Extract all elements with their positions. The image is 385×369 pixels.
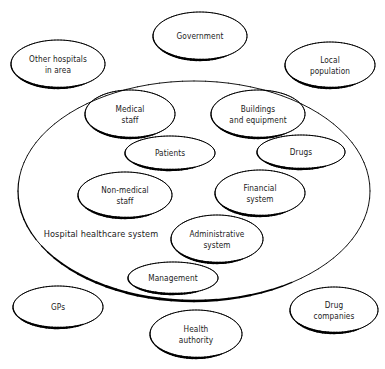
rich-picture-diagram: Hospital healthcare systemGovernmentOthe…	[0, 0, 385, 369]
node-ellipse-patients[interactable]	[125, 136, 215, 170]
node-ellipse-other-hospitals[interactable]	[11, 40, 105, 88]
node-ellipse-management[interactable]	[128, 262, 218, 294]
node-ellipse-administrative-system[interactable]	[171, 215, 263, 263]
node-ellipse-non-medical-staff[interactable]	[78, 172, 172, 218]
node-ellipse-medical-staff[interactable]	[85, 90, 175, 138]
node-ellipse-government[interactable]	[153, 12, 247, 60]
diagram-canvas	[0, 0, 385, 369]
node-ellipse-health-authority[interactable]	[150, 310, 242, 358]
node-ellipse-financial-system[interactable]	[215, 170, 305, 216]
node-ellipse-local-population[interactable]	[285, 42, 375, 88]
node-ellipse-drug-companies[interactable]	[290, 287, 378, 333]
node-ellipse-buildings-equipment[interactable]	[211, 90, 305, 138]
node-ellipse-drugs[interactable]	[257, 135, 345, 169]
system-boundary-ellipse	[18, 81, 370, 301]
node-ellipse-gps[interactable]	[13, 286, 103, 328]
